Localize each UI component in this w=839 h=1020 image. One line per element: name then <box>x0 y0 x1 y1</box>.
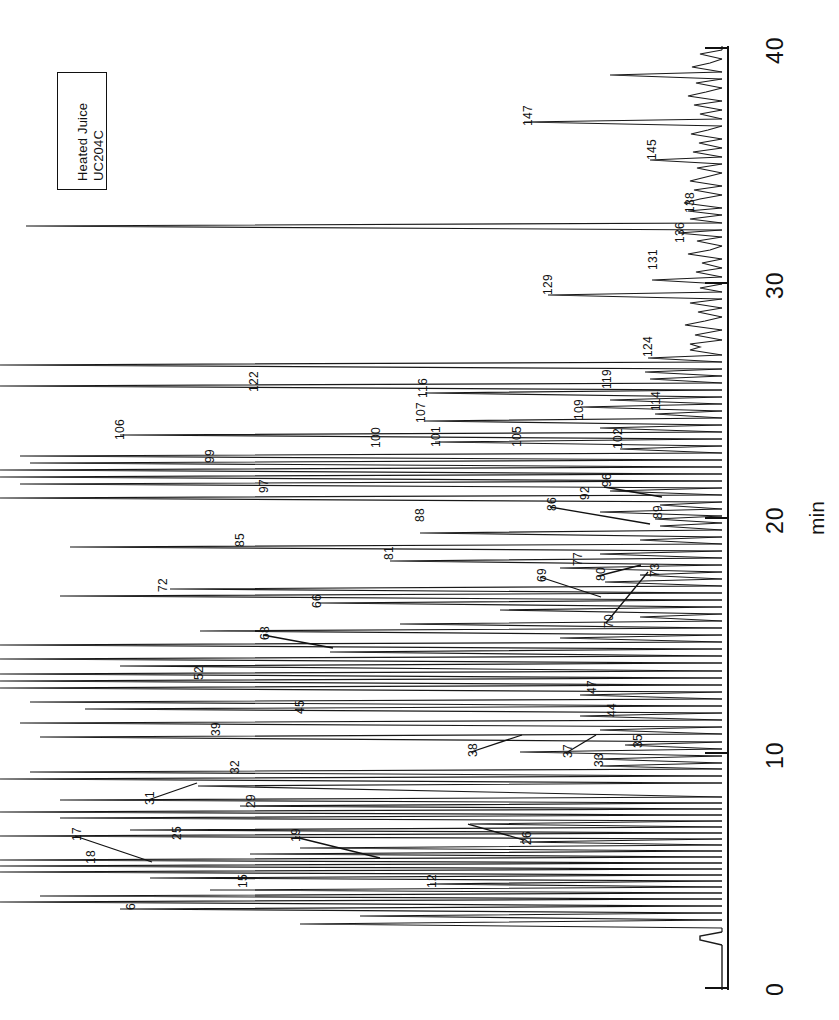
sample-caption-box: Heated Juice UC204C <box>57 72 107 190</box>
peak-label-80: 80 <box>594 567 608 581</box>
peak-label-145: 145 <box>645 139 659 160</box>
peak-leader-line <box>604 487 662 497</box>
peak-label-77: 77 <box>571 552 585 566</box>
axis-tick-0 <box>705 987 728 989</box>
peak-label-88: 88 <box>413 508 427 522</box>
peak-label-85: 85 <box>233 533 247 547</box>
peak-label-81: 81 <box>382 546 396 560</box>
peak-label-131: 131 <box>646 249 660 270</box>
peak-label-39: 39 <box>209 722 223 736</box>
peak-label-100: 100 <box>369 427 383 448</box>
peak-label-105: 105 <box>510 426 524 447</box>
peak-leader-line <box>295 837 380 858</box>
peak-label-138: 138 <box>683 192 697 213</box>
peak-label-37: 37 <box>561 744 575 758</box>
peak-label-129: 129 <box>541 274 555 295</box>
peak-label-38: 38 <box>466 743 480 757</box>
peak-label-69: 69 <box>535 568 549 582</box>
peak-label-136: 136 <box>673 222 687 243</box>
peak-label-116: 116 <box>416 378 430 398</box>
peak-label-32: 32 <box>228 760 242 774</box>
peak-label-35: 35 <box>631 734 645 748</box>
peak-label-73: 73 <box>648 563 662 577</box>
axis-tick-20 <box>705 517 728 519</box>
peak-label-45: 45 <box>293 700 307 714</box>
peak-label-107: 107 <box>414 402 428 423</box>
peak-label-70: 70 <box>602 614 616 628</box>
peak-label-47: 47 <box>585 680 599 694</box>
axis-tick-label-0: 0 <box>762 982 789 996</box>
caption-line-sample: Heated Juice <box>75 103 90 181</box>
peak-label-86: 86 <box>545 497 559 511</box>
peak-label-52: 52 <box>192 666 206 680</box>
peak-leader-line <box>263 635 333 648</box>
peak-label-102: 102 <box>611 428 625 449</box>
peak-label-6: 6 <box>124 903 138 910</box>
peak-label-44: 44 <box>605 703 619 717</box>
axis-tick-label-10: 10 <box>762 741 789 769</box>
peak-label-92: 92 <box>578 486 592 500</box>
peak-label-31: 31 <box>143 791 157 805</box>
peak-leader-line <box>550 507 650 524</box>
peak-label-97: 97 <box>257 479 271 493</box>
peak-label-26: 26 <box>520 831 534 845</box>
peak-label-12: 12 <box>425 874 439 888</box>
peak-label-66: 66 <box>310 594 324 608</box>
peak-label-33: 33 <box>592 753 606 767</box>
peak-label-114: 114 <box>649 391 663 411</box>
peak-label-106: 106 <box>113 419 127 440</box>
peak-label-89: 89 <box>651 505 665 519</box>
caption-line-id: UC204C <box>91 130 106 181</box>
peak-label-124: 124 <box>641 336 655 357</box>
peak-leader-line <box>468 824 524 840</box>
peak-label-147: 147 <box>521 105 535 126</box>
peak-label-15: 15 <box>236 874 250 888</box>
axis-tick-label-30: 30 <box>762 271 789 299</box>
chromatogram-figure: Heated Juice UC204C 010203040 min 147145… <box>0 0 839 1020</box>
peak-label-119: 119 <box>600 369 614 389</box>
peak-label-18: 18 <box>84 850 98 864</box>
peak-label-29: 29 <box>244 794 258 808</box>
peak-label-99: 99 <box>203 449 217 463</box>
peak-label-109: 109 <box>572 399 586 420</box>
peak-label-68: 68 <box>258 626 272 640</box>
peak-label-25: 25 <box>170 826 184 840</box>
peak-label-101: 101 <box>429 426 443 447</box>
peak-label-122: 122 <box>247 371 261 392</box>
peak-label-72: 72 <box>156 578 170 592</box>
axis-tick-40 <box>705 47 728 49</box>
axis-tick-10 <box>705 752 728 754</box>
peak-leader-line <box>540 577 601 597</box>
axis-tick-30 <box>705 282 728 284</box>
axis-tick-label-40: 40 <box>762 36 789 64</box>
axis-tick-label-20: 20 <box>762 506 789 534</box>
peak-label-96: 96 <box>600 473 614 487</box>
peak-label-19: 19 <box>289 828 303 842</box>
peak-label-17: 17 <box>70 827 84 841</box>
axis-title-min: min <box>805 501 829 535</box>
